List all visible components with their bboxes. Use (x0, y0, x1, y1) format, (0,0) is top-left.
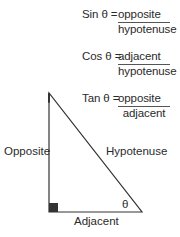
triangle-sides (49, 93, 142, 103)
triangle-path (49, 93, 142, 103)
label-hypotenuse: Hypotenuse (106, 145, 167, 157)
right-triangle-body (49, 93, 142, 103)
triangle-final (49, 93, 142, 103)
label-adjacent: Adjacent (74, 215, 119, 227)
triangle (49, 93, 142, 103)
right-triangle-shape (49, 93, 142, 103)
triangle-main (49, 93, 142, 103)
right-triangle-outline (49, 93, 142, 103)
triangle-shape (49, 93, 142, 103)
label-opposite: Opposite (4, 145, 50, 157)
right-triangle (0, 0, 180, 237)
right-angle-marker (49, 203, 58, 212)
right-triangle-edges (49, 93, 142, 103)
right-triangle-sides (49, 93, 142, 103)
label-theta: θ (122, 198, 128, 210)
